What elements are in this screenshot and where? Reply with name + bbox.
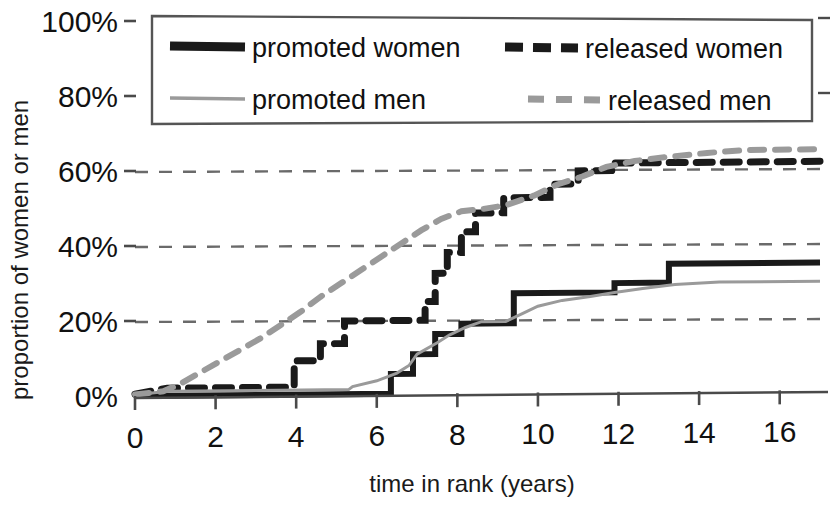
legend-swatch-released-men	[528, 99, 600, 100]
chart-legend[interactable]: promoted women released women promoted m…	[152, 16, 812, 124]
x-tick-label-12: 12	[602, 417, 635, 450]
x-tick-label-2: 2	[207, 420, 224, 453]
chart-svg: 100% 80% 60% 40% 20% 0% proportion of wo…	[0, 0, 830, 510]
legend-label-promoted-men: promoted men	[252, 85, 426, 115]
legend-swatch-promoted-women	[170, 46, 245, 47]
legend-label-promoted-women: promoted women	[252, 33, 461, 63]
x-tick-label-10: 10	[521, 417, 554, 450]
y-tick-label-80: 80%	[58, 80, 118, 113]
y-axis-title: proportion of women or men	[6, 100, 33, 400]
x-tick-label-4: 4	[288, 420, 305, 453]
legend-swatch-released-women	[505, 47, 578, 48]
x-tick-label-16: 16	[763, 415, 796, 448]
y-tick-label-20: 20%	[58, 305, 118, 338]
x-axis-title: time in rank (years)	[369, 470, 574, 497]
y-tick-label-100: 100%	[41, 5, 118, 38]
legend-label-released-men: released men	[608, 86, 772, 116]
legend-swatch-promoted-men	[170, 98, 245, 99]
x-tick-label-6: 6	[368, 419, 385, 452]
y-tick-label-40: 40%	[58, 230, 118, 263]
y-tick-label-0: 0%	[75, 380, 118, 413]
chart-figure: 100% 80% 60% 40% 20% 0% proportion of wo…	[0, 0, 830, 510]
x-tick-label-14: 14	[682, 416, 715, 449]
x-tick-label-8: 8	[449, 418, 466, 451]
y-tick-label-60: 60%	[58, 155, 118, 188]
legend-label-released-women: released women	[585, 34, 783, 64]
x-tick-label-0: 0	[127, 421, 144, 454]
